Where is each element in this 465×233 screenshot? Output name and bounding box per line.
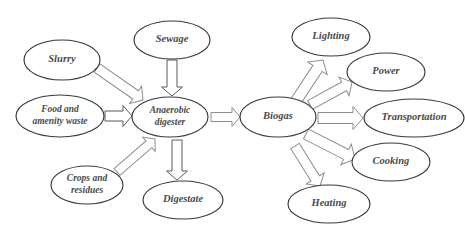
node-digestate-label: Digestate: [162, 193, 204, 204]
node-heating-label-line: Heating: [310, 197, 346, 208]
node-slurry-label-line: Slurry: [48, 53, 76, 64]
node-transportation[interactable]: Transportation: [364, 99, 464, 137]
node-digester-label-line: Anaerobic: [149, 105, 191, 115]
arrow-digester-to-digestate: [167, 140, 188, 180]
diagram-svg: SlurrySewageFood andamenity wasteAnaerob…: [0, 0, 465, 233]
node-sewage-label: Sewage: [156, 33, 189, 44]
node-crops[interactable]: Crops andresidues: [51, 166, 123, 204]
node-lighting-label: Lighting: [311, 30, 349, 41]
node-crops-label-line: Crops and: [67, 173, 108, 183]
node-cooking-label-line: Cooking: [373, 155, 410, 166]
arrow-slurry-to-digester: [91, 59, 149, 108]
node-crops-label: Crops andresidues: [67, 173, 108, 195]
node-food[interactable]: Food andamenity waste: [16, 95, 104, 137]
node-food-label-line: amenity waste: [32, 116, 88, 126]
node-slurry-label: Slurry: [48, 53, 76, 64]
node-heating-label: Heating: [310, 197, 346, 208]
arrow-digester-to-biogas: [211, 108, 240, 127]
node-biogas[interactable]: Biogas: [240, 97, 316, 137]
node-digestate[interactable]: Digestate: [143, 181, 223, 219]
node-heating[interactable]: Heating: [288, 185, 370, 223]
node-cooking-label: Cooking: [373, 155, 410, 166]
node-biogas-label-line: Biogas: [262, 110, 293, 121]
node-power-label-line: Power: [372, 65, 400, 76]
node-food-label-line: Food and: [40, 104, 79, 114]
diagram-canvas: SlurrySewageFood andamenity wasteAnaerob…: [0, 0, 465, 233]
node-crops-label-line: residues: [71, 185, 104, 195]
arrow-biogas-to-transportation: [318, 106, 363, 129]
arrow-sewage-to-digester: [162, 60, 183, 96]
node-sewage[interactable]: Sewage: [134, 21, 210, 59]
node-cooking[interactable]: Cooking: [352, 143, 430, 181]
node-slurry[interactable]: Slurry: [24, 40, 100, 80]
node-layer: SlurrySewageFood andamenity wasteAnaerob…: [16, 18, 464, 223]
node-sewage-label-line: Sewage: [156, 33, 189, 44]
node-lighting[interactable]: Lighting: [292, 18, 370, 56]
node-power-label: Power: [372, 65, 400, 76]
arrow-crops-to-digester: [111, 132, 161, 179]
node-lighting-label-line: Lighting: [311, 30, 349, 41]
node-digester-label-line: digester: [155, 117, 186, 127]
node-digestate-label-line: Digestate: [162, 193, 204, 204]
node-digester-label: Anaerobicdigester: [149, 105, 191, 127]
arrow-food-to-digester: [105, 106, 132, 127]
node-transportation-label: Transportation: [382, 111, 447, 122]
node-biogas-label: Biogas: [262, 110, 293, 121]
node-digester[interactable]: Anaerobicdigester: [132, 97, 208, 137]
node-power[interactable]: Power: [347, 53, 425, 91]
arrow-layer: [91, 54, 363, 192]
node-transportation-label-line: Transportation: [382, 111, 447, 122]
